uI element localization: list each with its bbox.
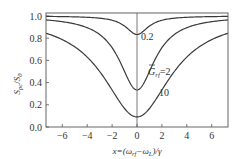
- y-tick-label: 0.8: [30, 33, 43, 44]
- y-tick-label: 0.4: [30, 77, 43, 88]
- x-tick-label: 6: [209, 130, 214, 141]
- y-tick-label: 0.0: [30, 122, 43, 133]
- y-tick-label: 1.0: [30, 11, 43, 22]
- x-tick-label: 2: [159, 130, 164, 141]
- x-tick-label: 4: [184, 130, 189, 141]
- chart: 0.00.20.40.60.81.0 −6−4−20246 0.2 Grf=2 …: [0, 0, 241, 159]
- x-tick-label: −4: [82, 130, 93, 141]
- y-tick-label: 0.2: [30, 99, 43, 110]
- x-axis-label: x=(ωrf−ωL)/γ: [112, 146, 162, 157]
- curve-label-g2: Grf=2: [148, 66, 171, 79]
- curve-label-0.2: 0.2: [141, 31, 154, 42]
- x-tick-label: 0: [135, 130, 140, 141]
- y-tick-label: 0.6: [30, 55, 43, 66]
- x-tick-label: −6: [57, 130, 68, 141]
- x-tick-label: −2: [107, 130, 118, 141]
- plot-frame: [46, 13, 228, 127]
- y-axis-label: Spc/S0: [12, 73, 23, 95]
- curve-label-10: 10: [159, 87, 169, 98]
